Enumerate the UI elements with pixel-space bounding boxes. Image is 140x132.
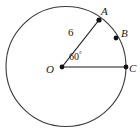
point-dot-b [114, 36, 119, 41]
degree-symbol: ° [79, 50, 82, 58]
angle-value: 60 [69, 51, 79, 62]
point-dot-o [60, 65, 65, 70]
radius-length-label: 6 [68, 27, 74, 38]
circle-diagram: A B C O 6 60° [0, 0, 140, 132]
point-label-a: A [101, 6, 108, 17]
point-dot-c [124, 65, 129, 70]
geometry-canvas [0, 0, 140, 132]
center-label-o: O [46, 64, 54, 75]
central-angle-label: 60° [69, 49, 82, 62]
point-dot-a [96, 17, 101, 22]
point-label-b: B [121, 28, 128, 39]
point-label-c: C [129, 63, 136, 74]
